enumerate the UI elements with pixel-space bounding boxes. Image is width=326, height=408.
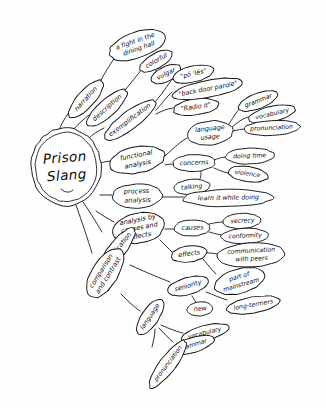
- mindmap-canvas: PrisonSlangnarrationa fight in thedining…: [0, 0, 326, 408]
- node-label-new: new: [194, 304, 208, 312]
- node-label-root-line1: Prison: [42, 148, 87, 167]
- node-label-concerns: concerns: [179, 158, 209, 167]
- node-label-process-analysis-line1: process: [123, 187, 150, 196]
- mind-map-drawing: PrisonSlangnarrationa fight in thedining…: [0, 0, 326, 408]
- node-label-root-line2: Slang: [46, 166, 87, 185]
- node-label-causes: causes: [181, 223, 204, 232]
- node-label-process-analysis-line2: analysis: [124, 196, 152, 205]
- node-label-learn-while-doing: learn it while doing: [198, 193, 259, 202]
